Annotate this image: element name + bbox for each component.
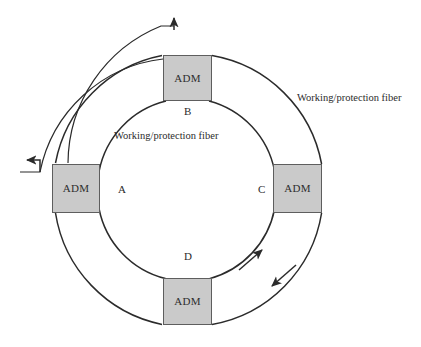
inner-ring-direction-arrow bbox=[239, 250, 262, 270]
adm-node-top-label: ADM bbox=[174, 73, 201, 84]
diagram-canvas: ADM ADM ADM ADM B A C D Working/protecti… bbox=[0, 0, 421, 347]
adm-node-bottom[interactable]: ADM bbox=[163, 278, 212, 325]
ring-letter-d: D bbox=[184, 251, 192, 262]
outer-fiber-caption: Working/protection fiber bbox=[297, 93, 401, 104]
adm-node-bottom-label: ADM bbox=[174, 296, 201, 307]
adm-node-left[interactable]: ADM bbox=[52, 164, 100, 213]
inner-fiber-caption: Working/protection fiber bbox=[114, 131, 218, 142]
outer-ring-direction-arrow bbox=[272, 265, 296, 286]
ring-letter-b: B bbox=[184, 106, 191, 117]
adm-node-right[interactable]: ADM bbox=[273, 164, 322, 213]
breakout-lead-inner bbox=[20, 59, 163, 172]
ring-letter-a: A bbox=[118, 184, 126, 195]
adm-node-top[interactable]: ADM bbox=[163, 55, 212, 101]
adm-node-right-label: ADM bbox=[284, 183, 311, 194]
ring-letter-c: C bbox=[258, 184, 265, 195]
adm-node-left-label: ADM bbox=[63, 183, 90, 194]
